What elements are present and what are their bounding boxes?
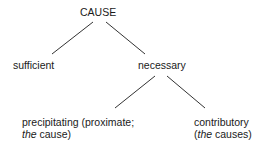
edge-cause-sufficient	[52, 22, 93, 54]
contributory-line2-rest: causes)	[212, 128, 252, 140]
precipitating-line1: precipitating (proximate;	[22, 116, 134, 128]
node-cause: CAUSE	[80, 6, 116, 18]
contributory-line1: contributory	[194, 116, 252, 128]
node-precipitating: precipitating (proximate; the cause)	[22, 116, 134, 140]
node-sufficient: sufficient	[13, 59, 54, 71]
edge-necessary-contributory	[167, 76, 205, 108]
node-contributory: contributory (the causes)	[194, 116, 252, 140]
emphasis-the: the	[22, 128, 37, 140]
contributory-line2: (the causes)	[194, 128, 252, 140]
node-necessary: necessary	[138, 59, 186, 71]
edge-cause-necessary	[106, 22, 145, 54]
precipitating-line2-rest: cause)	[37, 128, 71, 140]
edge-necessary-precipitating	[115, 76, 155, 108]
precipitating-line2: the cause)	[22, 128, 134, 140]
emphasis-the: the	[198, 128, 213, 140]
